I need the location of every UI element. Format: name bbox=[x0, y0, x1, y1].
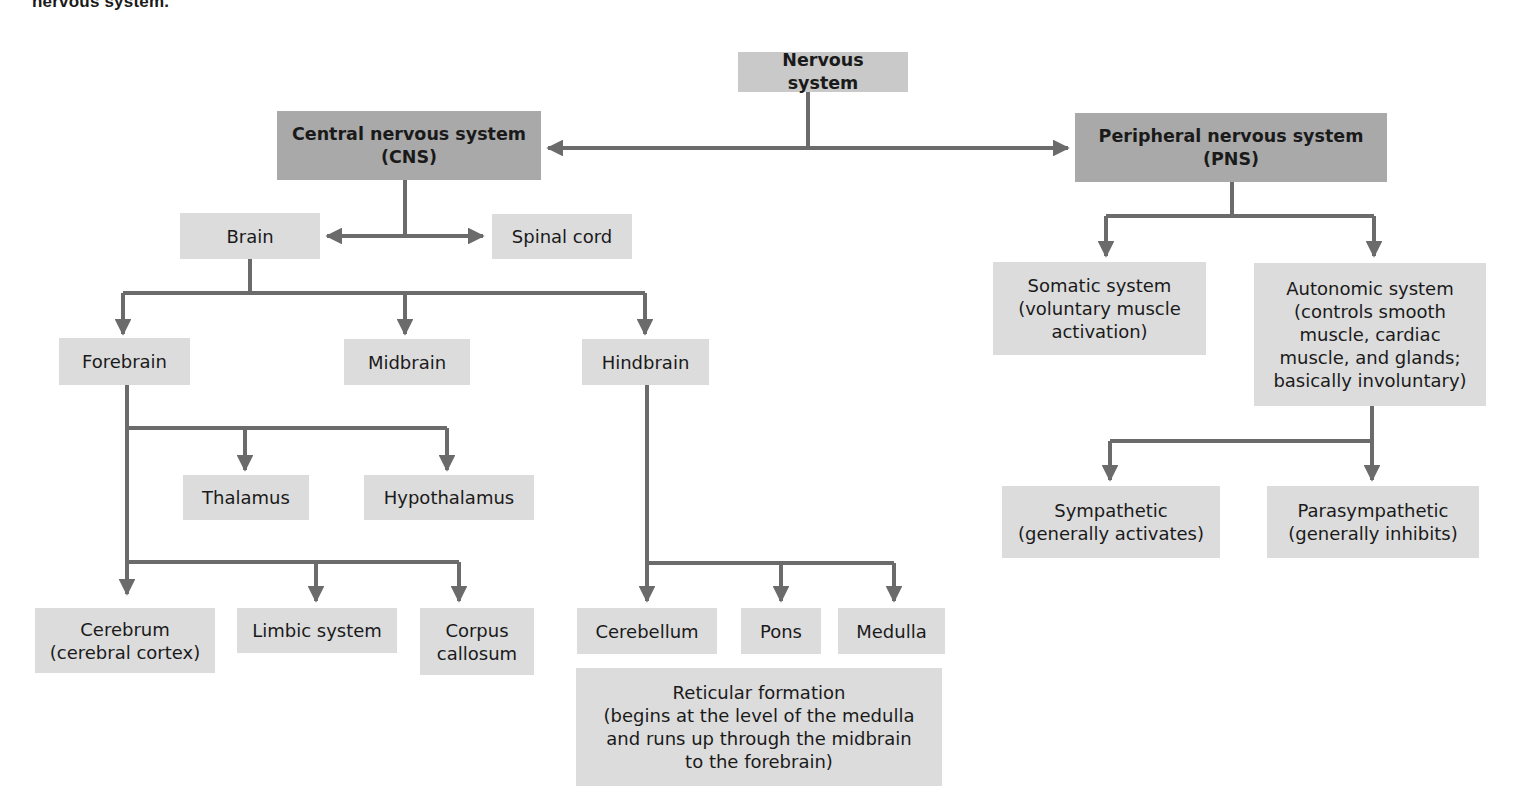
node-corpus-callosum: Corpus callosum bbox=[420, 608, 534, 675]
node-thalamus: Thalamus bbox=[183, 475, 309, 520]
node-forebrain: Forebrain bbox=[59, 338, 190, 385]
node-autonomic-system: Autonomic system (controls smooth muscle… bbox=[1254, 263, 1486, 406]
node-spinal-cord: Spinal cord bbox=[492, 214, 632, 259]
node-hindbrain: Hindbrain bbox=[582, 339, 709, 385]
node-reticular-formation: Reticular formation (begins at the level… bbox=[576, 668, 942, 786]
node-brain: Brain bbox=[180, 213, 320, 259]
node-parasympathetic: Parasympathetic (generally inhibits) bbox=[1267, 486, 1479, 558]
node-somatic-system: Somatic system (voluntary muscle activat… bbox=[993, 262, 1206, 355]
node-cns: Central nervous system (CNS) bbox=[277, 111, 541, 180]
node-sympathetic: Sympathetic (generally activates) bbox=[1002, 486, 1220, 558]
node-cerebellum: Cerebellum bbox=[577, 608, 717, 654]
node-nervous-system: Nervous system bbox=[738, 52, 908, 92]
node-medulla: Medulla bbox=[838, 608, 945, 654]
node-limbic-system: Limbic system bbox=[237, 608, 397, 653]
node-pons: Pons bbox=[741, 608, 821, 654]
node-midbrain: Midbrain bbox=[344, 339, 470, 385]
node-pns: Peripheral nervous system (PNS) bbox=[1075, 113, 1387, 182]
node-hypothalamus: Hypothalamus bbox=[364, 475, 534, 520]
node-cerebrum: Cerebrum (cerebral cortex) bbox=[35, 608, 215, 673]
